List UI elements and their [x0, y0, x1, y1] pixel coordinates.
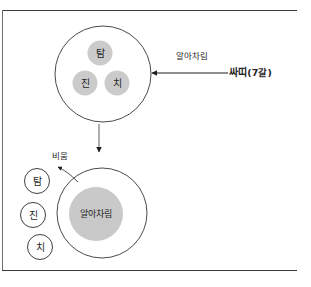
- released-chi: 치: [28, 235, 53, 260]
- diagram-canvas: 탐 진 치 알아차림 탐: [0, 0, 311, 287]
- defilement-jin: 진: [73, 71, 98, 96]
- mind-circle-outline: [55, 26, 151, 122]
- sati-text: 싸띠: [229, 67, 247, 78]
- released-label: 치: [36, 242, 45, 253]
- sati-suffix: (7갈): [247, 67, 272, 78]
- top-diagram: 탐 진 치: [55, 26, 151, 122]
- released-label: 탐: [33, 176, 42, 187]
- emptying-leader: [58, 167, 78, 182]
- defilement-label: 치: [113, 78, 122, 89]
- sati-label: 싸띠(7갈): [229, 68, 272, 78]
- released-label: 진: [29, 210, 38, 221]
- released-tam: 탐: [25, 169, 50, 194]
- diagram-page: 탐 진 치 알아차림 탐: [0, 0, 311, 287]
- defilement-chi: 치: [105, 71, 130, 96]
- awareness-blob-label: 알아차림: [80, 208, 112, 219]
- defilement-label: 진: [81, 78, 90, 89]
- bottom-diagram: 알아차림 탐 진 치: [21, 167, 148, 260]
- defilement-label: 탐: [96, 48, 105, 59]
- awareness-arrow-label: 알아차림: [176, 52, 208, 61]
- released-jin: 진: [21, 203, 46, 228]
- emptying-label: 비움: [52, 152, 68, 161]
- defilement-tam: 탐: [88, 41, 113, 66]
